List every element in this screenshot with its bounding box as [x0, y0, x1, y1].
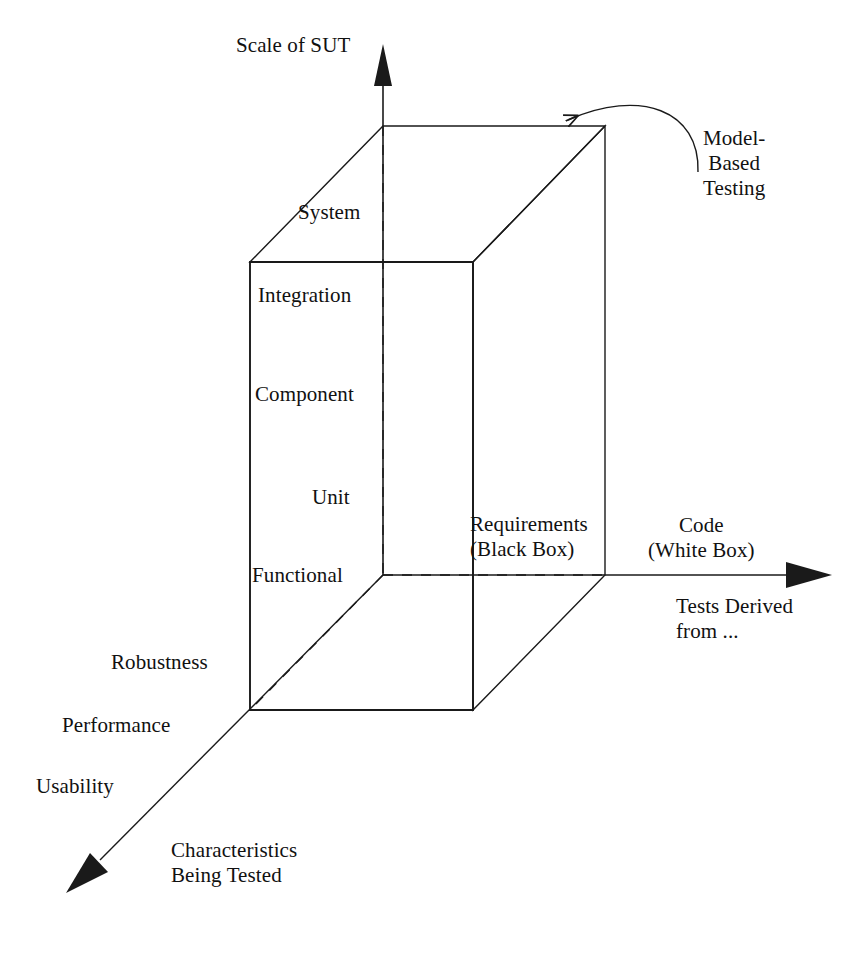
annotation-model-based-testing: Model- Based Testing	[703, 126, 765, 200]
axis-vertical-title: Scale of SUT	[236, 33, 350, 58]
axis-vertical-arrowhead	[374, 44, 392, 86]
diagram-canvas: Scale of SUT Code (White Box) Tests Deri…	[0, 0, 863, 955]
axis-horizontal-inner-label: Requirements (Black Box)	[470, 512, 588, 562]
scale-level-unit: Unit	[312, 485, 350, 510]
characteristic-performance: Performance	[62, 713, 170, 738]
axis-depth-title: Characteristics Being Tested	[171, 838, 297, 888]
axis-horizontal-subtitle: Tests Derived from ...	[676, 594, 793, 644]
axis-horizontal-line	[383, 562, 832, 588]
characteristic-robustness: Robustness	[111, 650, 208, 675]
scale-level-system: System	[298, 200, 360, 225]
axis-horizontal-arrowhead	[786, 562, 832, 588]
model-based-testing-pointer	[568, 105, 698, 172]
scale-level-component: Component	[255, 382, 354, 407]
characteristic-usability: Usability	[36, 774, 114, 799]
axis-horizontal-title: Code (White Box)	[648, 513, 755, 563]
scale-level-integration: Integration	[258, 283, 351, 308]
scale-level-functional: Functional	[252, 563, 343, 588]
